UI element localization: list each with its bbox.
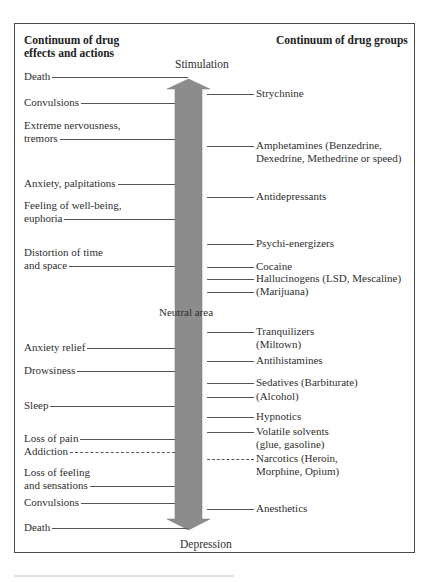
effect-label-line: Extreme nervousness, — [24, 119, 121, 132]
drug-group-label: Sedatives (Barbiturate) — [256, 376, 358, 389]
drug-group-label: Hallucinogens (LSD, Mescaline) — [256, 272, 401, 285]
effect-leader-line — [80, 439, 175, 440]
drug-group-label-line: (glue, gasoline) — [256, 438, 329, 451]
drug-group-label-line: Strychnine — [256, 87, 304, 100]
drug-group-label-line: Amphetamines (Benzedrine, — [256, 139, 401, 152]
effect-label-line: Loss of feeling — [24, 466, 90, 479]
effect-leader-line — [50, 406, 175, 407]
neutral-area-label: Neutral area — [159, 306, 213, 319]
drug-group-label-line: Psychi-energizers — [256, 237, 334, 250]
drug-group-leader-line — [207, 509, 254, 510]
effect-label-line: Convulsions — [24, 96, 79, 109]
effect-leader-line — [52, 528, 188, 529]
effect-label: Convulsions — [24, 496, 79, 509]
drug-group-label-line: Narcotics (Heroin, — [256, 452, 339, 465]
drug-group-label: Narcotics (Heroin,Morphine, Opium) — [256, 452, 339, 477]
drug-group-label-line: (Miltown) — [256, 338, 314, 351]
drug-group-label: Strychnine — [256, 87, 304, 100]
effect-label-line: and sensations — [24, 479, 90, 492]
effect-label: Loss of pain — [24, 432, 78, 445]
drug-group-label: Psychi-energizers — [256, 237, 334, 250]
drug-group-leader-line — [207, 417, 254, 418]
drug-group-leader-line — [207, 397, 254, 398]
effect-leader-line — [60, 139, 175, 140]
effect-label-line: Anxiety, palpitations — [24, 177, 116, 190]
drug-group-label: Antihistamines — [256, 354, 323, 367]
depression-label: Depression — [180, 538, 232, 551]
drug-group-leader-line — [207, 279, 254, 280]
effect-label: Convulsions — [24, 96, 79, 109]
drug-group-label-line: Dexedrine, Methedrine or speed) — [256, 152, 401, 165]
drug-group-label: Anesthetics — [256, 502, 307, 515]
drug-group-label: Cocaine — [256, 260, 292, 273]
drug-group-label: (Alcohol) — [256, 390, 299, 403]
drug-group-label-line: Sedatives (Barbiturate) — [256, 376, 358, 389]
effect-label: Feeling of well-being,euphoria — [24, 199, 121, 224]
drug-group-label-line: Anesthetics — [256, 502, 307, 515]
effect-label-line: Death — [24, 521, 50, 534]
effect-leader-line — [81, 103, 175, 104]
effect-leader-line — [52, 77, 188, 78]
effect-label-line: Death — [24, 70, 50, 83]
effect-label: Death — [24, 521, 50, 534]
drug-group-leader-line — [207, 332, 254, 333]
effect-label: Anxiety, palpitations — [24, 177, 116, 190]
drug-group-leader-line — [207, 94, 254, 95]
effect-leader-line — [70, 452, 175, 453]
effect-label-line: Sleep — [24, 399, 48, 412]
effect-label: Drowsiness — [24, 364, 75, 377]
drug-group-label-line: Tranquilizers — [256, 325, 314, 338]
effect-leader-line — [118, 184, 175, 185]
drug-group-leader-line — [207, 267, 254, 268]
figure-caption-fragment — [14, 575, 234, 577]
drug-group-leader-line — [207, 292, 254, 293]
drug-group-leader-line — [207, 383, 254, 384]
drug-group-label-line: (Alcohol) — [256, 390, 299, 403]
effect-label-line: Distortion of time — [24, 246, 103, 259]
drug-group-label: (Marijuana) — [256, 285, 309, 298]
effect-leader-line — [87, 348, 175, 349]
effect-label-line: Feeling of well-being, — [24, 199, 121, 212]
effect-label-line: Anxiety relief — [24, 341, 85, 354]
drug-group-leader-line — [207, 459, 254, 460]
drug-group-label: Tranquilizers(Miltown) — [256, 325, 314, 350]
effect-label: Loss of feelingand sensations — [24, 466, 90, 491]
effect-leader-line — [81, 503, 175, 504]
stimulation-label: Stimulation — [175, 58, 229, 71]
effect-label: Death — [24, 70, 50, 83]
effect-label: Anxiety relief — [24, 341, 85, 354]
drug-group-label-line: (Marijuana) — [256, 285, 309, 298]
drug-group-label-line: Antidepressants — [256, 190, 326, 203]
effect-leader-line — [64, 219, 175, 220]
drug-group-label-line: Morphine, Opium) — [256, 465, 339, 478]
drug-group-leader-line — [207, 361, 254, 362]
effect-label-line: Loss of pain — [24, 432, 78, 445]
effect-label: Extreme nervousness,tremors — [24, 119, 121, 144]
drug-group-label: Amphetamines (Benzedrine,Dexedrine, Meth… — [256, 139, 401, 164]
drug-group-leader-line — [207, 197, 254, 198]
drug-group-label-line: Antihistamines — [256, 354, 323, 367]
effect-leader-line — [90, 486, 175, 487]
drug-group-label-line: Volatile solvents — [256, 425, 329, 438]
effect-leader-line — [69, 266, 175, 267]
drug-group-label-line: Cocaine — [256, 260, 292, 273]
continuum-arrow-icon — [0, 0, 433, 582]
drug-group-label: Volatile solvents(glue, gasoline) — [256, 425, 329, 450]
effect-label: Sleep — [24, 399, 48, 412]
drug-group-label: Antidepressants — [256, 190, 326, 203]
effect-label-line: Convulsions — [24, 496, 79, 509]
drug-group-label-line: Hallucinogens (LSD, Mescaline) — [256, 272, 401, 285]
drug-group-label: Hypnotics — [256, 410, 301, 423]
drug-group-leader-line — [207, 432, 254, 433]
drug-group-leader-line — [207, 244, 254, 245]
drug-group-leader-line — [207, 146, 254, 147]
effect-label-line: Drowsiness — [24, 364, 75, 377]
effect-leader-line — [77, 371, 175, 372]
effect-label: Addiction — [24, 445, 68, 458]
effect-label-line: Addiction — [24, 445, 68, 458]
drug-group-label-line: Hypnotics — [256, 410, 301, 423]
effect-label: Distortion of timeand space — [24, 246, 103, 271]
